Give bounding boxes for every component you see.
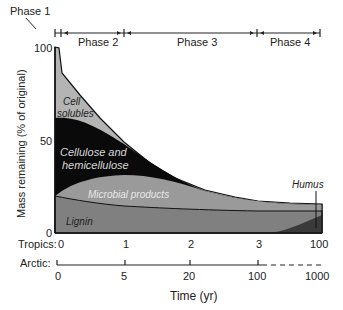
phase-2-label: Phase 2	[78, 36, 118, 48]
tropics-tick-1: 1	[123, 238, 129, 250]
arctic-label: Arctic:	[20, 257, 51, 269]
tropics-label: Tropics:	[18, 238, 57, 250]
tropics-tick-0: 0	[58, 238, 64, 250]
phase-1-pointer	[26, 18, 36, 29]
arctic-tick-1000: 1000	[305, 270, 329, 282]
tropics-tick-3: 3	[256, 238, 262, 250]
label-microbial: Microbial products	[88, 189, 169, 200]
label-humus: Humus	[292, 179, 324, 190]
arctic-tick-100: 100	[248, 270, 266, 282]
arctic-tick-0: 0	[55, 270, 61, 282]
label-cellulose: Cellulose and	[60, 146, 128, 158]
tropics-tick-2: 2	[188, 238, 194, 250]
y-tick-50: 50	[40, 135, 52, 147]
tropics-tick-100: 100	[310, 238, 328, 250]
label-lignin: Lignin	[66, 216, 93, 227]
plot-area	[55, 47, 322, 233]
phase-bar: Phase 1 Phase 2 Phase 3 Phase 4	[10, 5, 320, 48]
y-axis-label: Mass remaining (% of original)	[15, 69, 27, 218]
label-hemicellulose: hemicellulose	[62, 159, 129, 171]
arctic-tick-20: 20	[183, 270, 195, 282]
arctic-tick-5: 5	[121, 270, 127, 282]
phase-1-label: Phase 1	[10, 5, 50, 17]
y-tick-100: 100	[34, 42, 52, 54]
decomposition-chart: Phase 1 Phase 2 Phase 3 Phase 4 100 50 0…	[0, 0, 343, 310]
phase-4-label: Phase 4	[270, 36, 310, 48]
label-solubles: solubles	[57, 108, 94, 119]
label-cell: Cell	[63, 96, 81, 107]
x-axis-label: Time (yr)	[170, 289, 218, 303]
phase-3-label: Phase 3	[177, 36, 217, 48]
